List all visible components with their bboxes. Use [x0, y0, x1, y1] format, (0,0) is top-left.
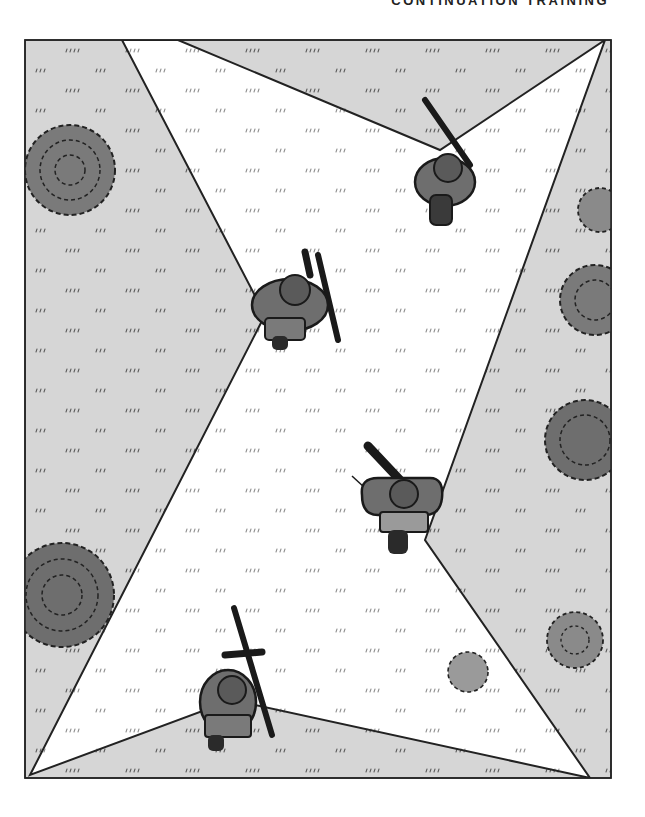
- bush-icon: [25, 125, 115, 215]
- bush-icon: [578, 188, 622, 232]
- bush-icon: [547, 612, 603, 668]
- bush-icon: [545, 400, 625, 480]
- fire-team-formation-illustration: [0, 0, 645, 817]
- bush-icon: [448, 652, 488, 692]
- bush-icon: [560, 265, 630, 335]
